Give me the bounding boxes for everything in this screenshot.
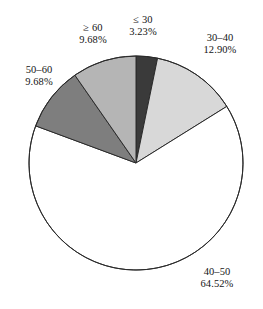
pie-label-40-50-value: 64.52%: [182, 278, 252, 290]
pie-label-30-40-value: 12.90%: [186, 44, 254, 56]
pie-label-50-60-name: 50–60: [6, 64, 72, 76]
pie-label-40-50: 40–50 64.52%: [182, 266, 252, 290]
pie-slice-group: [29, 56, 243, 270]
pie-label-ge60: ≥ 60 9.68%: [62, 22, 124, 46]
pie-label-ge60-name: ≥ 60: [62, 22, 124, 34]
pie-label-ge60-value: 9.68%: [62, 34, 124, 46]
pie-label-30-40: 30–40 12.90%: [186, 32, 254, 56]
pie-label-50-60-value: 9.68%: [6, 76, 72, 88]
pie-label-50-60: 50–60 9.68%: [6, 64, 72, 88]
pie-chart-figure: ≤ 30 3.23% 30–40 12.90% ≥ 60 9.68% 50–60…: [0, 0, 263, 309]
pie-label-40-50-name: 40–50: [182, 266, 252, 278]
pie-label-30-40-name: 30–40: [186, 32, 254, 44]
